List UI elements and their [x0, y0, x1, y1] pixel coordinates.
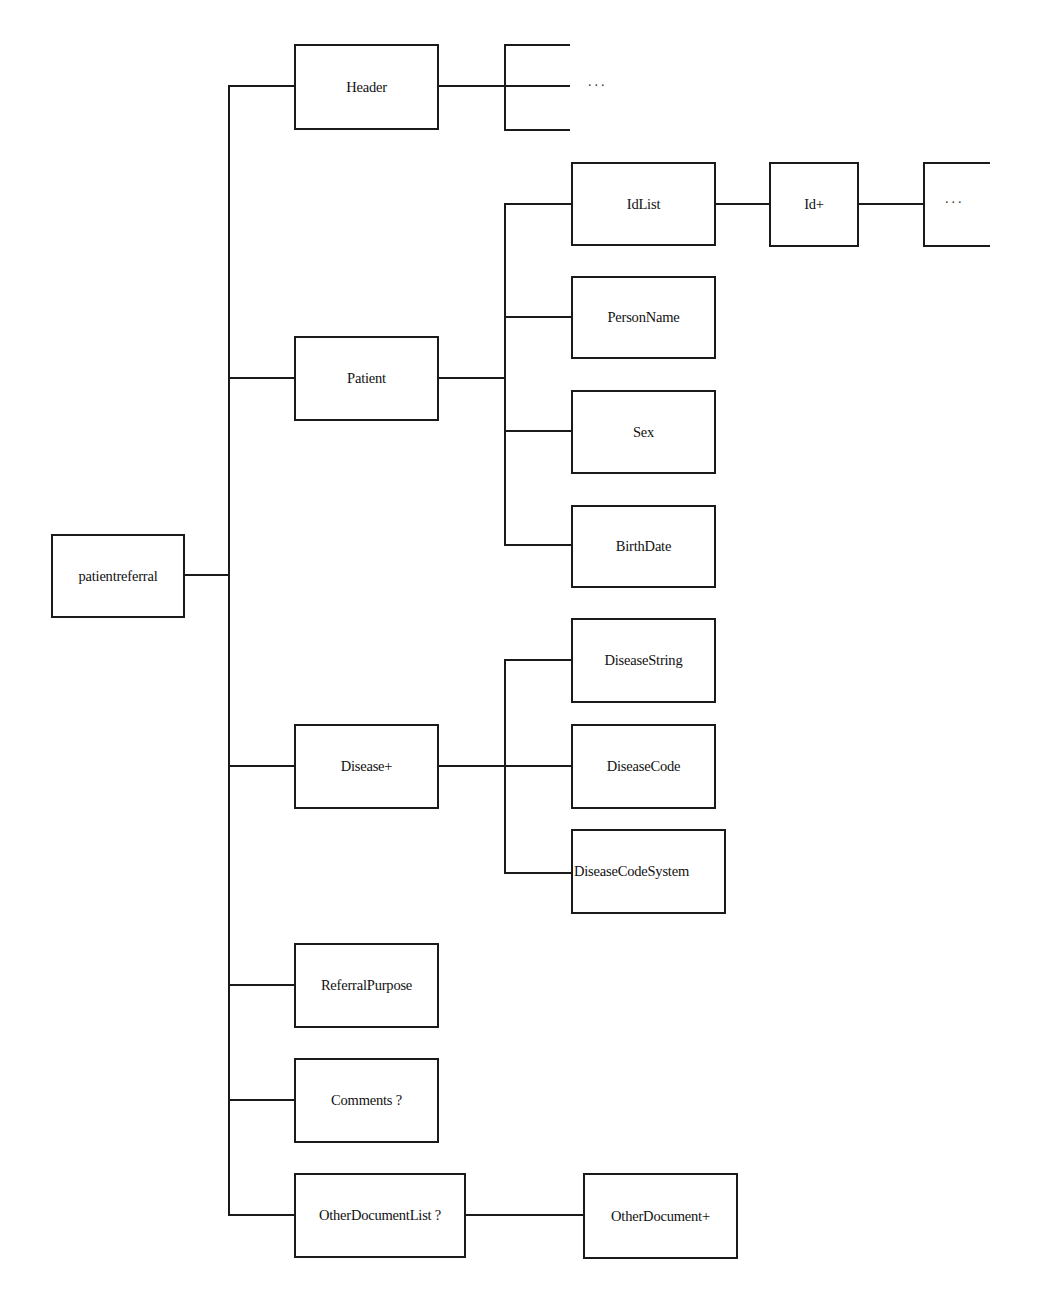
node-label: DiseaseCodeSystem — [574, 863, 689, 880]
node-disease-string[interactable]: DiseaseString — [571, 618, 716, 703]
node-patientreferral[interactable]: patientreferral — [51, 534, 185, 618]
node-disease-code[interactable]: DiseaseCode — [571, 724, 716, 809]
node-other-document[interactable]: OtherDocument+ — [583, 1173, 738, 1259]
node-patient[interactable]: Patient — [294, 336, 439, 421]
connector-trunk-comments — [228, 1099, 294, 1101]
node-sex[interactable]: Sex — [571, 390, 716, 474]
node-label: OtherDocument+ — [611, 1208, 710, 1225]
node-disease[interactable]: Disease+ — [294, 724, 439, 809]
node-label: BirthDate — [616, 538, 671, 555]
connector-patient-branch — [438, 377, 506, 379]
node-referral-purpose[interactable]: ReferralPurpose — [294, 943, 439, 1028]
tree-diagram: patientreferral Header ... Patient IdLis… — [0, 0, 1042, 1303]
connector-other-document-list-child — [465, 1214, 583, 1216]
connector-branch-disease-code-system — [504, 872, 571, 874]
node-other-document-list[interactable]: OtherDocumentList ? — [294, 1173, 466, 1258]
connector-id-bracket — [858, 203, 924, 205]
node-label: Patient — [347, 370, 386, 387]
connector-idlist-id — [715, 203, 769, 205]
node-label: Id+ — [804, 196, 824, 213]
node-id[interactable]: Id+ — [769, 162, 859, 247]
connector-branch-disease-string — [504, 659, 571, 661]
node-comments[interactable]: Comments ? — [294, 1058, 439, 1143]
header-bracket-bottom — [504, 129, 570, 131]
header-bracket-spine — [504, 44, 506, 131]
connector-trunk-other-document-list — [228, 1214, 294, 1216]
connector-root-trunk — [184, 574, 230, 576]
node-disease-code-system[interactable]: DiseaseCodeSystem — [571, 829, 726, 914]
id-bracket-top — [923, 162, 990, 164]
id-bracket-bottom — [923, 245, 990, 247]
patient-branch-spine — [504, 203, 506, 546]
id-more-ellipsis: ... — [945, 191, 965, 207]
node-idlist[interactable]: IdList — [571, 162, 716, 246]
header-more-ellipsis: ... — [588, 74, 608, 90]
connector-trunk-referral-purpose — [228, 984, 294, 986]
id-bracket-spine — [923, 162, 925, 247]
node-label: Comments ? — [331, 1092, 402, 1109]
node-birth-date[interactable]: BirthDate — [571, 505, 716, 588]
node-label: Sex — [633, 424, 654, 441]
connector-trunk-header — [228, 85, 294, 87]
connector-trunk-disease — [228, 765, 294, 767]
node-label: PersonName — [607, 309, 679, 326]
node-label: DiseaseString — [605, 652, 683, 669]
node-label: ReferralPurpose — [321, 977, 412, 994]
node-person-name[interactable]: PersonName — [571, 276, 716, 359]
node-label: Disease+ — [341, 758, 393, 775]
connector-branch-birth-date — [504, 544, 571, 546]
node-label: DiseaseCode — [607, 758, 681, 775]
connector-trunk-patient — [228, 377, 294, 379]
disease-branch-spine — [504, 659, 506, 874]
node-label: OtherDocumentList ? — [319, 1207, 441, 1224]
connector-branch-sex — [504, 430, 571, 432]
header-bracket-top — [504, 44, 570, 46]
connector-main-trunk — [228, 85, 230, 1216]
node-label: patientreferral — [78, 568, 157, 585]
node-label: IdList — [627, 196, 660, 213]
connector-branch-person-name — [504, 316, 571, 318]
node-header[interactable]: Header — [294, 44, 439, 130]
connector-branch-idlist — [504, 203, 571, 205]
node-label: Header — [346, 79, 387, 96]
